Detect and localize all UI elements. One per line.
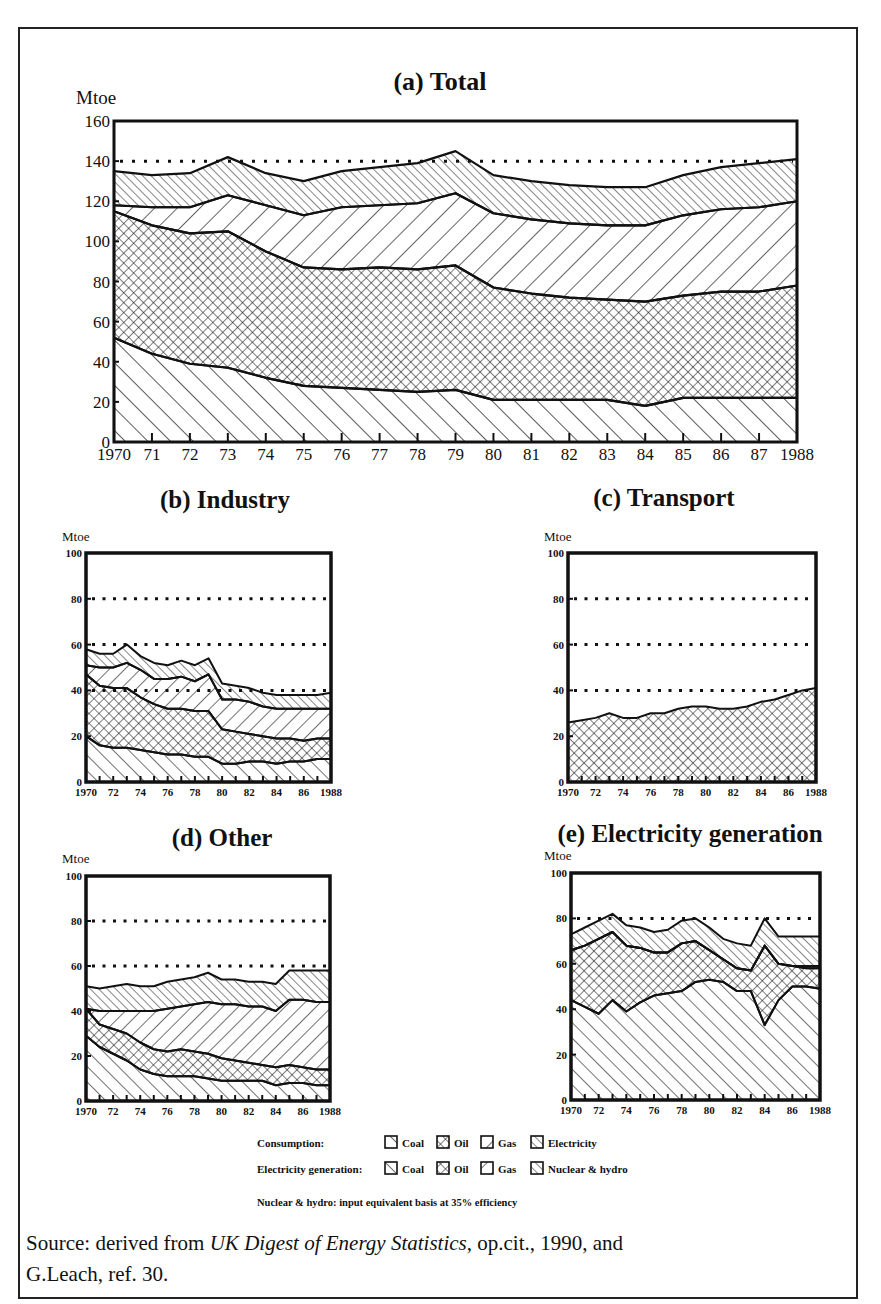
legend-item-label: Oil (454, 1137, 469, 1149)
y-tick-label: 20 (71, 1050, 83, 1062)
chart-total: (a) TotalMtoe020406080100120140160197071… (76, 67, 814, 464)
y-tick-label: 160 (85, 112, 111, 131)
y-axis-label: Mtoe (62, 529, 90, 544)
x-tick-label: 78 (189, 1105, 201, 1117)
chart-industry: (b) IndustryMtoe020406080100197072747678… (62, 486, 343, 798)
x-tick-label: 76 (649, 1104, 661, 1116)
x-tick-label: 80 (217, 786, 229, 798)
legend-swatch-oil (437, 1162, 449, 1174)
x-tick-label: 78 (189, 786, 201, 798)
x-tick-label: 1970 (97, 445, 131, 464)
chart-title: (d) Other (172, 824, 273, 852)
x-tick-label: 76 (645, 786, 657, 798)
x-tick-label: 1970 (75, 786, 98, 798)
y-tick-label: 20 (71, 730, 83, 742)
y-tick-label: 40 (71, 684, 83, 696)
x-tick-label: 84 (755, 786, 767, 798)
legend-row-label: Electricity generation: (257, 1163, 362, 1175)
x-tick-label: 82 (244, 786, 256, 798)
legend-item-label: Electricity (548, 1137, 597, 1149)
x-tick-label: 80 (485, 445, 502, 464)
y-tick-label: 40 (556, 1003, 568, 1015)
source-note: Source: derived from UK Digest of Energy… (26, 1228, 623, 1290)
x-tick-label: 1970 (75, 1105, 98, 1117)
source-line-2: G.Leach, ref. 30. (26, 1259, 623, 1290)
legend-swatch-gas (481, 1136, 493, 1148)
legend-item-label: Oil (454, 1163, 469, 1175)
source-line-1: Source: derived from UK Digest of Energy… (26, 1228, 623, 1259)
y-tick-label: 60 (556, 958, 568, 970)
x-tick-label: 77 (371, 445, 389, 464)
x-tick-label: 73 (219, 445, 236, 464)
y-tick-label: 100 (66, 870, 83, 882)
x-tick-label: 76 (333, 445, 350, 464)
y-axis-label: Mtoe (544, 848, 572, 863)
y-tick-label: 60 (553, 639, 565, 651)
x-tick-label: 84 (270, 1105, 282, 1117)
x-tick-label: 78 (673, 786, 685, 798)
chart-title: (a) Total (393, 67, 486, 96)
chart-electricity-generation: (e) Electricity generationMtoe0204060801… (544, 820, 832, 1116)
y-tick-label: 80 (71, 915, 83, 927)
x-tick-label: 86 (783, 786, 795, 798)
legend-item-label: Coal (402, 1137, 424, 1149)
y-tick-label: 120 (85, 192, 111, 211)
x-tick-label: 78 (676, 1104, 688, 1116)
y-axis-label: Mtoe (76, 87, 116, 108)
area-oil (568, 688, 816, 782)
x-tick-label: 79 (447, 445, 464, 464)
x-tick-label: 72 (108, 1105, 120, 1117)
x-tick-label: 84 (637, 445, 655, 464)
x-tick-label: 1970 (560, 1104, 583, 1116)
y-tick-label: 100 (551, 867, 568, 879)
legend: Consumption:CoalOilGasElectricityElectri… (257, 1136, 628, 1208)
x-tick-label: 74 (135, 1105, 147, 1117)
x-tick-label: 72 (590, 786, 602, 798)
y-tick-label: 80 (553, 593, 565, 605)
legend-item-label: Gas (498, 1163, 517, 1175)
x-tick-label: 86 (298, 786, 310, 798)
x-tick-label: 1988 (805, 786, 828, 798)
x-tick-label: 1988 (780, 445, 814, 464)
x-tick-label: 1988 (319, 1105, 342, 1117)
chart-transport: (c) TransportMtoe02040608010019707274767… (544, 484, 828, 798)
x-tick-label: 80 (216, 1105, 228, 1117)
x-tick-label: 82 (243, 1105, 255, 1117)
y-tick-label: 80 (93, 273, 110, 292)
x-tick-label: 1988 (809, 1104, 832, 1116)
x-tick-label: 86 (297, 1105, 309, 1117)
y-axis-label: Mtoe (62, 851, 90, 866)
x-tick-label: 71 (143, 445, 160, 464)
chart-title: (c) Transport (593, 484, 735, 512)
x-tick-label: 81 (523, 445, 540, 464)
x-tick-label: 74 (257, 445, 275, 464)
x-tick-label: 72 (108, 786, 120, 798)
legend-note: Nuclear & hydro: input equivalent basis … (257, 1197, 518, 1208)
x-tick-label: 86 (713, 445, 730, 464)
legend-swatch-elec (531, 1136, 543, 1148)
x-tick-label: 84 (759, 1104, 771, 1116)
legend-swatch-coal (385, 1162, 397, 1174)
x-tick-label: 83 (599, 445, 616, 464)
y-tick-label: 40 (553, 684, 565, 696)
y-tick-label: 100 (548, 547, 565, 559)
x-tick-label: 87 (751, 445, 769, 464)
y-tick-label: 20 (93, 393, 110, 412)
chart-other: (d) OtherMtoe020406080100197072747678808… (62, 824, 342, 1117)
figure-canvas: (a) TotalMtoe020406080100120140160197071… (0, 0, 881, 1304)
y-tick-label: 140 (85, 152, 111, 171)
x-tick-label: 74 (135, 786, 147, 798)
x-tick-label: 1988 (320, 786, 343, 798)
y-tick-label: 40 (93, 353, 110, 372)
y-tick-label: 100 (85, 232, 111, 251)
legend-swatch-elec (531, 1162, 543, 1174)
legend-item-label: Coal (402, 1163, 424, 1175)
x-tick-label: 74 (621, 1104, 633, 1116)
chart-title: (e) Electricity generation (557, 820, 822, 848)
x-tick-label: 78 (409, 445, 426, 464)
x-tick-label: 72 (181, 445, 198, 464)
y-tick-label: 60 (93, 313, 110, 332)
y-tick-label: 20 (553, 730, 565, 742)
y-tick-label: 60 (71, 960, 83, 972)
x-tick-label: 75 (295, 445, 312, 464)
